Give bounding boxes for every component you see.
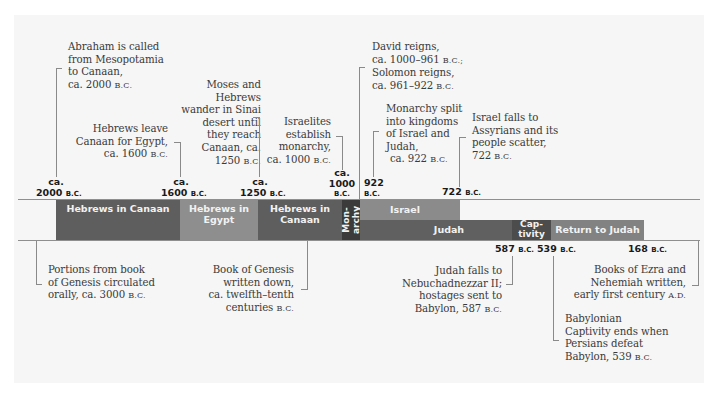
note-israel-falls: Israel falls to Assyrians and its people…	[472, 112, 558, 163]
note-genesis-oral: Portions from book of Genesis circulated…	[48, 264, 155, 303]
bottom-rule	[18, 240, 700, 241]
band-hebrews-in-egypt: Hebrews inEgypt	[180, 200, 258, 240]
band-hebrews-in-canaan-1: Hebrews in Canaan	[56, 200, 180, 240]
connector-genesis-written	[307, 241, 308, 289]
connector-587	[512, 256, 513, 284]
connector-922	[373, 131, 374, 177]
note-monarchy-split: Monarchy split into kingdoms of Israel a…	[386, 103, 462, 167]
date-2000: ca. 2000 B.C.	[36, 177, 76, 199]
connector-abraham-tick	[56, 68, 62, 69]
connector-ezra-tick	[692, 285, 699, 286]
band-captivity: Cap-tivity	[512, 220, 551, 240]
connector-587-tick	[506, 284, 513, 285]
connector-genesis-oral-tick	[36, 284, 42, 285]
connector-1000	[342, 136, 343, 170]
connector-539-tick	[553, 340, 559, 341]
connector-david-tick	[359, 67, 365, 68]
note-israelites-monarchy: Israelites establish monarchy, ca. 1000 …	[246, 116, 331, 167]
band-judah: Judah	[360, 220, 512, 240]
band-israel: Israel	[360, 200, 460, 220]
date-168: 168 B.C.	[628, 244, 667, 256]
note-leave-canaan: Hebrews leave Canaan for Egypt, ca. 1600…	[70, 123, 168, 162]
band-return-to-judah: Return to Judah	[551, 220, 644, 240]
date-539: 539 B.C.	[537, 244, 576, 256]
note-judah-falls: Judah falls to Nebuchadnezzar II; hostag…	[392, 265, 502, 316]
note-abraham: Abraham is called from Mesopotamia to Ca…	[68, 41, 164, 92]
date-1000: ca. 1000 B.C.	[328, 168, 356, 200]
date-922: 922 B.C.	[364, 178, 386, 199]
connector-abraham	[56, 68, 57, 177]
connector-722	[459, 137, 460, 187]
connector-genesis-written-tick	[301, 289, 308, 290]
note-david-solomon: David reigns, ca. 1000–961 B.C.; Solomon…	[372, 41, 463, 93]
connector-ezra	[698, 241, 699, 285]
date-587: 587 B.C.	[495, 244, 534, 256]
date-1250: ca. 1250 B.C.	[240, 177, 280, 199]
band-hebrews-in-canaan-2: Hebrews inCanaan	[258, 200, 342, 240]
connector-1000-tick	[336, 136, 343, 137]
note-captivity-ends: Babylonian Captivity ends when Persians …	[565, 313, 668, 364]
connector-genesis-oral	[36, 241, 37, 284]
connector-722-tick	[459, 137, 466, 138]
date-1600: ca. 1600 B.C.	[161, 177, 201, 199]
date-722: 722 B.C.	[442, 187, 486, 199]
band-monarchy: Mon-archy	[342, 200, 360, 240]
connector-922-tick	[373, 131, 379, 132]
connector-539	[553, 256, 554, 340]
connector-david	[359, 67, 360, 200]
note-genesis-written: Book of Genesis written down, ca. twelft…	[200, 264, 294, 315]
note-ezra-nehemiah: Books of Ezra and Nehemiah written, earl…	[560, 264, 686, 303]
